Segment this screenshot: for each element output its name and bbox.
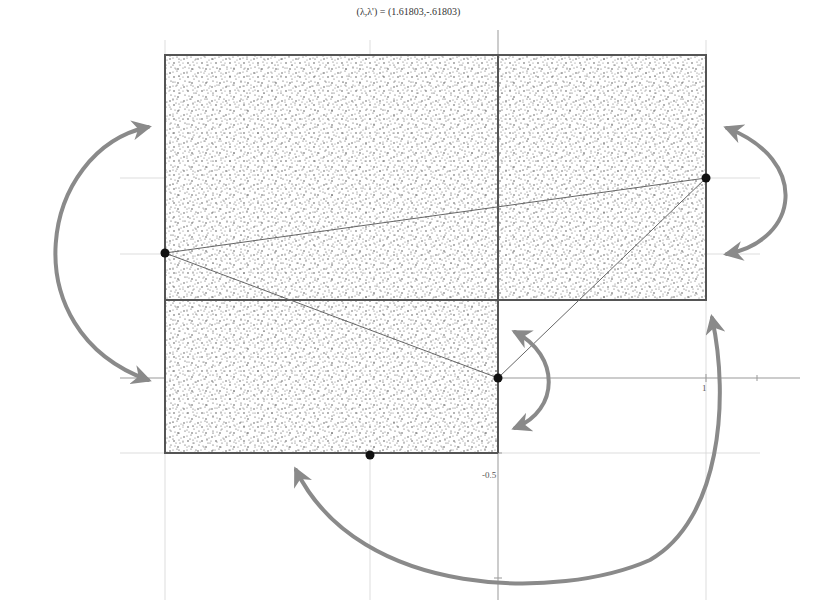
torus-partition-figure: (λ,λ') = (1.61803,-.61803) xyxy=(0,0,817,615)
diagram-canvas xyxy=(0,0,817,615)
origin-point xyxy=(494,374,503,383)
right-swap-arrow xyxy=(727,128,786,254)
left-swap-arrow xyxy=(55,127,148,380)
center-swap-arrow xyxy=(515,332,549,428)
tick-label-one: 1 xyxy=(702,383,707,393)
left-point xyxy=(161,249,170,258)
tick-label-neg-half: -0.5 xyxy=(482,470,496,480)
bottom-point xyxy=(366,451,375,460)
stippled-regions xyxy=(165,55,706,453)
right-point xyxy=(702,174,711,183)
